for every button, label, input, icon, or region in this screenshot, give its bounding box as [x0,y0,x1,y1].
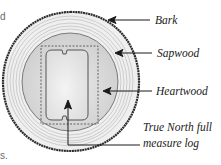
log-profile-shape [46,50,88,120]
bark-arrow [108,17,150,24]
cropped-text-fragment-top: d [0,12,6,22]
log-diagram: d s. Bark Sapwood Heartwood True North f… [0,0,221,165]
sapwood-label: Sapwood [157,47,199,59]
bark-label: Bark [155,14,177,26]
cropped-text-fragment-bottom: s. [0,151,8,161]
true-north-label-line2: measure log [143,137,199,149]
heartwood-label: Heartwood [156,85,208,97]
true-north-label-line1: True North full [143,121,212,133]
